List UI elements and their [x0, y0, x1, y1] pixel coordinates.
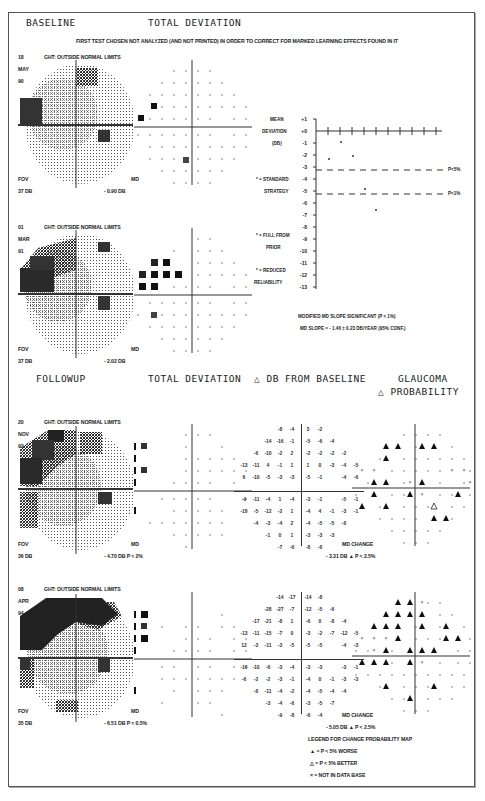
svg-text:-5: -5	[303, 188, 308, 194]
followup-title: FOLLOWUP	[36, 373, 86, 384]
greyscale-field	[18, 594, 133, 722]
svg-text:-2: -2	[303, 152, 308, 158]
change-probability-map: ×××× ×××	[352, 424, 472, 549]
svg-text:×: ×	[463, 467, 466, 473]
legend-better: △ = P < 5% BETTER	[310, 760, 357, 766]
md-chart-label-3: (DB)	[272, 141, 282, 146]
svg-text:+0: +0	[301, 128, 307, 134]
total-deviation-title: TOTAL DEVIATION	[148, 17, 241, 28]
md-change-value: - 5.05 DB ▲ P < 2.5%	[326, 724, 375, 730]
fov-value: 35 DB	[18, 720, 32, 726]
legend-not-in-database: × = NOT IN DATA BASE	[310, 772, 365, 778]
p5-line-label: P<5%	[448, 167, 460, 172]
legend-title: LEGEND FOR CHANGE PROBABILITY MAP	[308, 736, 412, 742]
svg-text:×: ×	[373, 467, 376, 473]
legend-full-2: PRIOR	[266, 245, 281, 250]
md-slope-significance: MODIFIED MD SLOPE SIGNIFICANT (P < 1%)	[298, 314, 396, 319]
legend-reduced: * = REDUCED	[256, 268, 286, 273]
md-scatter-plot: +1+0-1-2-3-4-5-6-7-8-9-10-11-12-13	[295, 115, 460, 305]
fov-value: 36 DB	[18, 553, 32, 559]
db-change-map: -8 -4 3 -2 -14 -16 -1 -5 -6 -4 -6 -10 -2…	[238, 424, 364, 549]
md-value: - 6.51 DB P < 0.5%	[104, 720, 147, 726]
greyscale-field	[18, 60, 133, 188]
fov-label: FOV	[18, 346, 28, 352]
svg-text:×: ×	[421, 659, 424, 665]
test-day: 20	[18, 419, 24, 425]
svg-text:-12: -12	[300, 272, 307, 278]
md-slope-value: MD SLOPE = - 1.46 ± 0.23 DB/YEAR (95% CO…	[300, 326, 406, 331]
legend-standard: * = STANDARD	[256, 177, 288, 182]
glaucoma-title: GLAUCOMA	[398, 373, 448, 384]
svg-text:-10: -10	[300, 248, 307, 254]
learning-effect-note: FIRST TEST CHOSEN NOT ANALYZED (AND NOT …	[76, 38, 398, 44]
fov-label: FOV	[18, 541, 28, 547]
legend-reduced-2: RELIABILITY	[254, 280, 282, 285]
md-change-value: - 3.31 DB ▲ P < 2.5%	[326, 553, 375, 559]
total-deviation-map	[134, 592, 252, 717]
svg-text:×: ×	[385, 635, 388, 641]
p1-line-label: P<1%	[448, 191, 460, 196]
md-value: - 2.02 DB	[104, 358, 125, 364]
total-deviation-map	[134, 60, 252, 185]
change-probability-title: △ PROBABILITY	[378, 386, 459, 397]
svg-text:-11: -11	[300, 260, 307, 266]
db-change-map: -14 -17 -14 -8 -28 -27 -7 -12 -5 -6 -17 …	[238, 592, 364, 717]
fov-value: 37 DB	[18, 188, 32, 194]
svg-text:×: ×	[361, 635, 364, 641]
svg-text:-8: -8	[303, 224, 308, 230]
svg-text:-6: -6	[303, 200, 308, 206]
greyscale-field	[18, 426, 133, 554]
baseline-title: BASELINE	[26, 17, 76, 28]
svg-text:-7: -7	[303, 212, 308, 218]
fov-label: FOV	[18, 176, 28, 182]
svg-text:-13: -13	[300, 284, 307, 290]
md-value: - 0.90 DB	[104, 188, 125, 194]
svg-text:×: ×	[421, 491, 424, 497]
svg-text:×: ×	[409, 479, 412, 485]
svg-text:-1: -1	[303, 140, 308, 146]
svg-text:-3: -3	[303, 164, 308, 170]
ght-status: GHT: OUTSIDE NORMAL LIMITS	[44, 586, 121, 592]
svg-text:×: ×	[469, 479, 472, 485]
followup-total-deviation-title: TOTAL DEVIATION	[148, 373, 241, 384]
svg-text:-4: -4	[303, 176, 308, 182]
legend-full: * = FULL FROM	[256, 233, 289, 238]
total-deviation-map	[134, 424, 252, 549]
svg-text:×: ×	[451, 467, 454, 473]
ght-status: GHT: OUTSIDE NORMAL LIMITS	[44, 419, 121, 425]
svg-text:×: ×	[361, 467, 364, 473]
greyscale-field	[18, 230, 133, 358]
svg-text:-9: -9	[303, 236, 308, 242]
test-day: 08	[18, 586, 24, 592]
svg-text:×: ×	[373, 635, 376, 641]
fov-label: FOV	[18, 708, 28, 714]
md-chart-label-1: MEAN	[270, 117, 284, 122]
svg-text:+1: +1	[301, 116, 307, 122]
svg-text:×: ×	[373, 647, 376, 653]
total-deviation-map	[134, 228, 252, 353]
legend-standard-2: STRATEGY	[264, 189, 289, 194]
db-from-baseline-title: △ DB FROM BASELINE	[254, 373, 366, 384]
svg-text:×: ×	[421, 599, 424, 605]
md-chart-label-2: DEVIATION	[262, 129, 287, 134]
fov-value: 37 DB	[18, 358, 32, 364]
md-value: - 4.70 DB P < 2%	[104, 553, 143, 559]
change-probability-map: × ××× × ×	[352, 592, 472, 717]
legend-worse: ▲ = P < 5% WORSE	[310, 748, 357, 754]
